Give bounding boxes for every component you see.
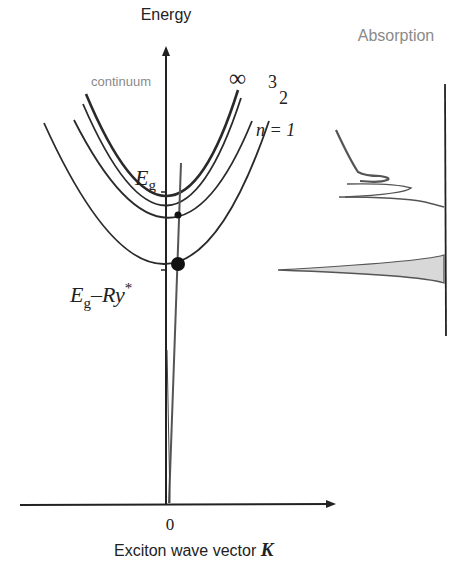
dispersion-curves: [44, 90, 269, 264]
n1-intersection-dot: [171, 257, 185, 271]
eg-ry-label: Eg–Ry*: [69, 280, 132, 311]
n1-absorption-peak: [278, 255, 444, 283]
n2-band-curve: [74, 120, 252, 218]
n3-band-curve: [83, 98, 241, 206]
continuum-absorption: [336, 130, 388, 182]
eg-label: Eg: [134, 165, 156, 193]
x-axis-label: Exciton wave vector K: [114, 539, 275, 560]
n1-band-curve: [44, 121, 269, 264]
absorption-baseline: [445, 84, 446, 336]
n2-absorption-peak: [339, 197, 444, 207]
photon-line-inner: [167, 350, 170, 503]
absorption-spectrum: [278, 84, 446, 336]
x-origin-label: 0: [166, 515, 175, 534]
continuum-band-curve: [86, 90, 238, 196]
n2-intersection-dot: [175, 212, 182, 219]
infinity-label: ∞: [229, 65, 246, 91]
absorption-label: Absorption: [358, 27, 435, 44]
exciton-diagram: Energy Absorption continuum ∞ 3 2 n = 1 …: [0, 0, 466, 563]
n1-label: n = 1: [256, 120, 295, 140]
n2-label: 2: [279, 88, 288, 108]
n3-label: 3: [268, 72, 277, 92]
energy-axis-label: Energy: [141, 6, 192, 23]
continuum-label: continuum: [91, 74, 151, 89]
wave-vector-axis: [20, 504, 334, 505]
n3-absorption-peak: [345, 184, 411, 197]
